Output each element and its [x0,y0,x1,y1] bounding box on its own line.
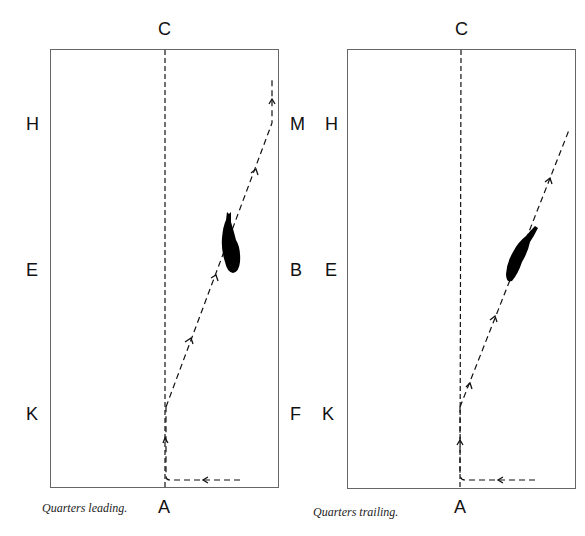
track-path [166,407,240,480]
caption-quarters-leading: Quarters leading. [42,501,127,516]
marker-m-left: M [290,115,305,133]
left-arena [51,50,279,489]
marker-h-left: H [26,115,39,133]
track-path-diagonal [166,77,272,407]
marker-k-right: K [322,405,334,423]
marker-c-right: C [455,20,468,38]
arrow-icon [211,275,218,281]
marker-k-left: K [26,405,38,423]
arrow-icon [251,169,258,175]
horse-icon [506,226,538,281]
right-arena [348,50,576,489]
marker-e-right: E [325,261,337,279]
marker-b-left: B [290,261,302,279]
marker-a-left: A [158,498,170,516]
marker-h-right: H [325,115,338,133]
track-path [460,407,535,480]
marker-a-right: A [454,498,466,516]
arrow-icon [185,338,193,344]
marker-c-left: C [158,20,171,38]
caption-quarters-trailing: Quarters trailing. [313,505,398,520]
arena-border [348,50,576,489]
marker-e-left: E [26,261,38,279]
horse-icon [222,212,240,273]
marker-f-left: F [290,405,301,423]
